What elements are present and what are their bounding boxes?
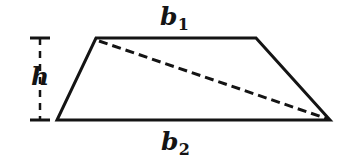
geometry-figure: b1 b2 h xyxy=(0,0,346,167)
label-b2-subscript: 2 xyxy=(179,140,190,159)
label-b2-base: b xyxy=(161,127,178,156)
label-bottom-base-b2: b2 xyxy=(161,129,190,158)
label-b1-base: b xyxy=(160,2,177,31)
label-h-base: h xyxy=(31,62,49,91)
label-top-base-b1: b1 xyxy=(160,4,189,33)
label-height-h: h xyxy=(31,64,49,89)
trapezoid-outline xyxy=(57,38,330,120)
label-b1-subscript: 1 xyxy=(178,15,189,34)
